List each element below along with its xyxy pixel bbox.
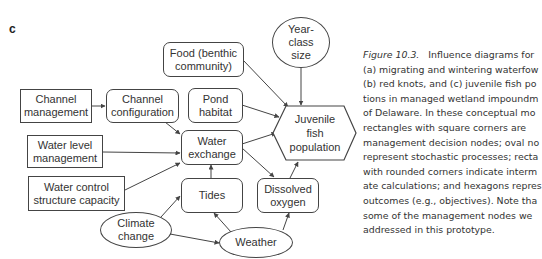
juvenile-fish-line1: Juvenile <box>295 113 335 125</box>
node-dissolved-oxygen: Dissolved oxygen <box>257 178 319 213</box>
year-class-line1: Year- <box>288 23 314 36</box>
water-exchange-line2: exchange <box>188 148 236 161</box>
edge-config-to-water-exchange <box>165 122 180 134</box>
node-water-level-management: Water level management <box>27 135 103 168</box>
food-line1: Food (benthic <box>170 47 237 60</box>
water-level-line2: management <box>33 152 97 165</box>
edge-food-to-fish <box>243 60 288 107</box>
edge-water-control-to-water-exchange <box>125 163 180 190</box>
node-climate-change: Climate change <box>100 212 172 248</box>
node-food: Food (benthic community) <box>163 42 244 77</box>
caption-line-5: rectangles with square corners are <box>363 121 542 136</box>
caption-figure-label: Figure 10.3. <box>363 49 419 60</box>
water-level-line1: Water level <box>38 139 93 152</box>
year-class-line3: size <box>291 49 311 62</box>
water-control-line2: structure capacity <box>33 194 119 207</box>
caption-line-0: Figure 10.3. Influence diagrams for <box>363 48 542 63</box>
caption-line-11: some of the management nodes we <box>363 209 542 224</box>
caption-line-8: with rounded corners indicate interm <box>363 165 542 180</box>
water-exchange-line1: Water <box>198 135 227 148</box>
channel-configuration-line2: configuration <box>111 106 174 119</box>
edge-water-exchange-to-fish <box>242 133 276 144</box>
edge-weather-to-do <box>283 213 289 230</box>
figure-caption: Figure 10.3. Influence diagrams for (a) … <box>363 48 542 238</box>
water-control-line1: Water control <box>44 181 109 194</box>
channel-management-line1: Channel <box>36 93 77 106</box>
caption-line-3: tions in managed wetland impoundm <box>363 92 542 107</box>
node-water-control-structure: Water control structure capacity <box>28 176 125 211</box>
influence-diagram: Juvenile fish population c Food (benthic… <box>0 0 360 259</box>
dissolved-oxygen-line1: Dissolved <box>264 183 312 196</box>
channel-configuration-line1: Channel <box>122 93 163 106</box>
caption-line-1: (a) migrating and wintering waterfow <box>363 63 542 78</box>
node-water-exchange: Water exchange <box>181 130 243 165</box>
channel-management-line2: management <box>24 106 88 119</box>
node-channel-management: Channel management <box>20 89 92 123</box>
edge-do-to-fish <box>290 162 298 178</box>
juvenile-fish-line2: fish <box>306 127 323 139</box>
weather-line1: Weather <box>235 236 276 249</box>
edge-water-exchange-to-do <box>242 148 274 177</box>
edge-weather-to-tides <box>214 213 231 232</box>
node-weather: Weather <box>219 227 293 258</box>
caption-line-6: management decision nodes; oval no <box>363 136 542 151</box>
caption-line-7: represent stochastic processes; recta <box>363 150 542 165</box>
caption-line-2: (b) red knots, and (c) juvenile fish po <box>363 77 542 92</box>
edge-water-level-to-water-exchange <box>103 152 180 153</box>
year-class-line2: class <box>288 36 313 49</box>
tides-line1: Tides <box>199 189 226 202</box>
climate-change-line2: change <box>118 230 154 243</box>
climate-change-line1: Climate <box>117 217 154 230</box>
edge-climate-to-tides <box>161 196 180 217</box>
caption-text-0: Influence diagrams for <box>428 49 534 60</box>
node-pond-habitat: Pond habitat <box>188 88 243 123</box>
node-year-class-size: Year- class size <box>272 17 330 68</box>
node-channel-configuration: Channel configuration <box>106 89 179 123</box>
caption-line-4: of Delaware. In these conceptual mo <box>363 106 542 121</box>
juvenile-fish-line3: population <box>290 141 341 153</box>
panel-label: c <box>9 22 16 36</box>
edge-pond-to-fish <box>242 105 279 117</box>
food-line2: community) <box>175 60 232 73</box>
caption-line-12: addressed in this prototype. <box>363 223 542 238</box>
pond-habitat-line2: habitat <box>199 106 232 119</box>
dissolved-oxygen-line2: oxygen <box>270 196 305 209</box>
edge-climate-to-weather <box>170 234 219 243</box>
caption-line-9: ate calculations; and hexagons repres <box>363 179 542 194</box>
caption-line-10: outcomes (e.g., objectives). Note tha <box>363 194 542 209</box>
node-tides: Tides <box>181 178 243 213</box>
pond-habitat-line1: Pond <box>203 93 229 106</box>
